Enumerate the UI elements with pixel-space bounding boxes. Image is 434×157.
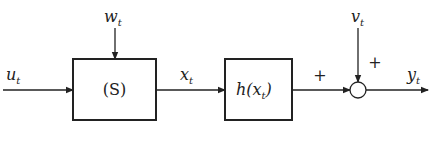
measurement-noise-label: vt <box>351 7 365 28</box>
sum-sign-left: + <box>313 66 326 85</box>
process-noise-label: wt <box>104 7 123 28</box>
system-block-label: (S) <box>103 80 126 99</box>
summing-junction <box>350 82 366 98</box>
state-label: xt <box>180 65 194 86</box>
observation-block-label: h(xt) <box>236 80 272 101</box>
sum-sign-top: + <box>368 53 381 72</box>
output-label: yt <box>406 65 421 86</box>
input-label: ut <box>6 65 21 86</box>
block-diagram: ut wt (S) xt h(xt) + vt + yt <box>0 0 434 157</box>
